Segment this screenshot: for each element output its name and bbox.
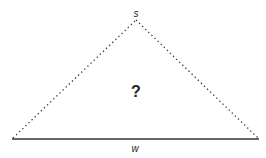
- base-label: w: [131, 143, 139, 154]
- triangle-diagram: s ? w: [0, 0, 266, 158]
- center-question-label: ?: [131, 83, 141, 100]
- apex-label: s: [134, 8, 139, 19]
- right-side-dotted: [136, 20, 258, 138]
- left-side-dotted: [13, 20, 136, 138]
